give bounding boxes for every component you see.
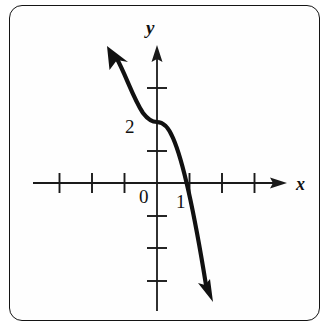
x-tick-label-1: 1 — [176, 192, 186, 211]
origin-label: 0 — [139, 187, 149, 206]
figure-container: y x 0 1 2 — [0, 0, 327, 334]
graph-canvas — [0, 0, 327, 334]
cubic-curve — [116, 57, 206, 285]
y-intercept-label: 2 — [125, 117, 135, 136]
figure-caption — [105, 324, 225, 334]
x-axis-label: x — [296, 175, 305, 193]
curve-upper-arrowhead — [107, 46, 128, 70]
y-axis-label: y — [146, 18, 154, 37]
